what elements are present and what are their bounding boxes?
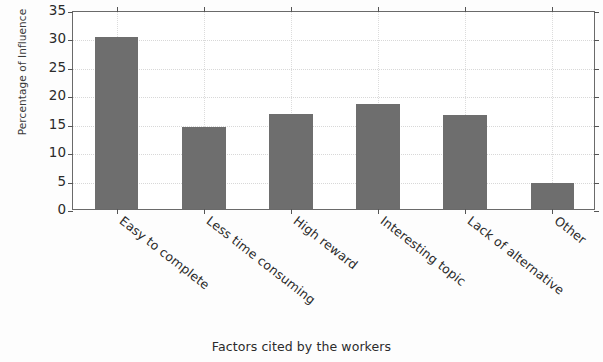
bar — [182, 127, 226, 209]
y-axis-tick-mark — [68, 126, 73, 127]
y-axis-tick-mark — [68, 97, 73, 98]
y-axis-tick-mark-right — [594, 40, 599, 41]
x-axis-tick-label: Easy to complete — [116, 213, 212, 293]
y-axis-tick-mark-right — [594, 97, 599, 98]
y-axis-tick-labels: 05101520253035 — [36, 0, 66, 362]
y-axis-tick-mark — [68, 211, 73, 212]
bar — [356, 104, 400, 209]
bar — [95, 37, 139, 209]
y-axis-tick-mark-right — [594, 154, 599, 155]
x-axis-tick-label: Other — [552, 213, 590, 247]
y-axis-tick-label: 25 — [38, 61, 66, 75]
gridline-horizontal — [73, 97, 594, 98]
plot-area — [72, 11, 595, 210]
bar — [531, 183, 575, 209]
bar-chart-figure: Percentage of Influence 05101520253035 E… — [0, 0, 603, 362]
x-axis-tick-mark-top — [465, 7, 466, 12]
y-axis-tick-label: 5 — [38, 175, 66, 189]
y-axis-tick-mark-right — [594, 183, 599, 184]
bar — [443, 115, 487, 209]
x-axis-tick-label: High reward — [291, 213, 361, 272]
y-axis-tick-label: 30 — [38, 33, 66, 47]
x-axis-tick-mark-top — [378, 7, 379, 12]
bar — [269, 114, 313, 209]
y-axis-tick-label: 0 — [38, 203, 66, 217]
y-axis-tick-mark — [68, 154, 73, 155]
gridline-horizontal — [73, 69, 594, 70]
y-axis-tick-label: 20 — [38, 90, 66, 104]
x-axis-tick-label: Interesting topic — [378, 213, 469, 289]
x-axis-tick-mark-top — [117, 7, 118, 12]
x-axis-tick-mark-top — [291, 7, 292, 12]
gridline-horizontal — [73, 154, 594, 155]
x-axis-tick-mark-top — [204, 7, 205, 12]
y-axis-tick-mark-right — [594, 12, 599, 13]
x-axis-title: Factors cited by the workers — [0, 339, 603, 354]
y-axis-tick-mark — [68, 183, 73, 184]
y-axis-tick-mark — [68, 69, 73, 70]
y-axis-tick-label: 15 — [38, 118, 66, 132]
gridline-horizontal — [73, 126, 594, 127]
x-axis-tick-labels: Easy to completeLess time consumingHigh … — [72, 213, 595, 313]
y-axis-tick-mark-right — [594, 211, 599, 212]
gridline-horizontal — [73, 183, 594, 184]
y-axis-tick-label: 10 — [38, 146, 66, 160]
gridline-horizontal — [73, 40, 594, 41]
x-axis-tick-mark-top — [552, 7, 553, 12]
y-axis-title: Percentage of Influence — [16, 0, 28, 162]
y-axis-tick-mark — [68, 40, 73, 41]
gridline-vertical — [552, 12, 553, 209]
y-axis-tick-label: 35 — [38, 4, 66, 18]
y-axis-tick-mark-right — [594, 126, 599, 127]
y-axis-tick-mark — [68, 12, 73, 13]
y-axis-tick-mark-right — [594, 69, 599, 70]
